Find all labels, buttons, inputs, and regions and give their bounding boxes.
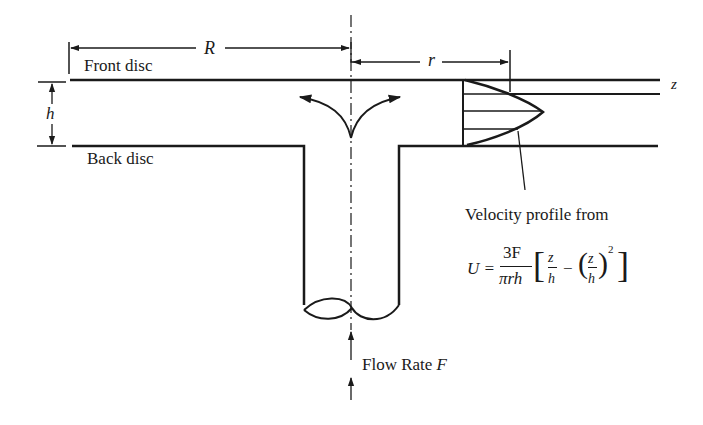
- flow-rate-text: Flow Rate: [362, 355, 437, 374]
- flow-rate-symbol: F: [437, 355, 447, 374]
- eq-paren-left: (: [578, 248, 588, 278]
- flow-arrow-left: [300, 97, 351, 138]
- front-disc-label: Front disc: [84, 57, 152, 74]
- back-disc-label: Back disc: [87, 150, 154, 167]
- eq-lhs: U =: [467, 259, 495, 279]
- eq-frac-denominator: πrh: [499, 269, 522, 289]
- R-label: R: [204, 39, 215, 57]
- h-label: h: [46, 105, 55, 122]
- eq-minus: −: [563, 259, 573, 279]
- velocity-profile-caption: Velocity profile from: [465, 206, 609, 223]
- eq-bracket-right: ]: [617, 247, 629, 283]
- r-extension-left: [351, 42, 353, 62]
- back-disc-left-and-pipe-wall: [72, 146, 304, 305]
- flow-rate-label: Flow Rate F: [362, 356, 447, 373]
- z-label: z: [671, 77, 677, 92]
- eq-bar-1: [548, 267, 557, 268]
- r-label: r: [428, 51, 435, 69]
- flow-arrow-right: [351, 97, 400, 138]
- eq-z1: z: [548, 250, 553, 266]
- velocity-profile-curve: [465, 80, 543, 145]
- velocity-leader-line: [518, 131, 525, 190]
- eq-z2: z: [588, 251, 593, 267]
- eq-h2: h: [588, 271, 595, 287]
- eq-h1: h: [548, 271, 555, 287]
- eq-frac-numerator: 3F: [503, 243, 521, 263]
- eq-frac-bar: [500, 266, 532, 267]
- eq-paren-right: ): [598, 248, 608, 278]
- eq-bar-2: [588, 267, 597, 268]
- eq-exponent: 2: [608, 243, 614, 255]
- eq-bracket-left: [: [533, 247, 545, 283]
- pipe-break-lower: [304, 308, 352, 319]
